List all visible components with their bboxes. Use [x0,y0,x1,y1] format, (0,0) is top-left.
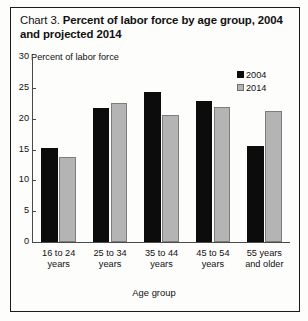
bar-2004-2 [144,92,161,242]
x-axis-line [32,242,290,243]
bar-2014-4 [265,111,282,242]
legend-label: 2014 [246,83,266,93]
y-axis-tick-label: 30 [19,51,29,61]
y-axis-tick-label: 25 [19,82,29,92]
bar-2004-4 [247,146,264,242]
bar-2014-2 [162,115,179,242]
x-tick-label: 55 yearsand older [234,248,294,269]
y-axis-tick [33,242,36,243]
bar-2014-0 [59,157,76,242]
legend-item-2004: 2004 [237,69,266,80]
bar-2004-3 [196,101,213,242]
chart-legend: 20042014 [237,69,266,95]
x-tick-label-line: 55 years [234,248,294,259]
y-axis-tick-label: 5 [24,205,29,215]
legend-item-2014: 2014 [237,82,266,93]
x-axis-label: Age group [0,287,308,298]
legend-swatch-icon [237,71,244,78]
bar-2014-1 [111,103,128,242]
y-axis-tick-label: 0 [24,236,29,246]
plot-area: Percent of labor force 051015202530 16 t… [0,0,308,321]
y-axis-tick-label: 15 [19,144,29,154]
bar-2004-1 [93,108,110,242]
y-axis-tick-label: 10 [19,174,29,184]
bar-2014-3 [214,107,231,242]
chart-figure: Chart 3. Percent of labor force by age g… [0,0,308,321]
legend-swatch-icon [237,84,244,91]
y-axis-tick-label: 20 [19,113,29,123]
x-tick-label-line: and older [234,259,294,270]
legend-label: 2004 [246,70,266,80]
bar-2004-0 [41,148,58,242]
